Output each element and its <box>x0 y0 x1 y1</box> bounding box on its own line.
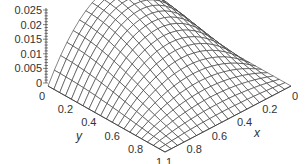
z-tick-label: 0.015 <box>14 33 42 45</box>
x-tick-label: 0 <box>292 90 298 102</box>
y-tick-label: 0.4 <box>81 116 96 128</box>
surface-plot: 00.0050.010.0150.020.025 00.20.40.60.81 … <box>0 0 307 164</box>
z-tick-label: 0.02 <box>21 19 42 31</box>
y-tick-label: 0 <box>39 90 45 102</box>
z-axis-ticks: 00.0050.010.0150.020.025 <box>14 4 48 89</box>
y-tick-label: 0.8 <box>128 143 143 155</box>
z-tick-label: 0.005 <box>14 62 42 74</box>
x-tick-label: 0.2 <box>262 103 277 115</box>
z-tick-label: 0.025 <box>14 4 42 16</box>
x-tick-label: 1 <box>166 156 172 164</box>
x-tick-label: 0.6 <box>212 130 227 142</box>
x-tick-label: 0.8 <box>187 143 202 155</box>
y-tick-label: 0.2 <box>58 103 73 115</box>
z-tick-label: 0.01 <box>21 48 42 60</box>
z-tick-label: 0 <box>36 77 42 89</box>
x-tick-label: 0.4 <box>237 116 252 128</box>
y-tick-label: 1 <box>156 156 162 164</box>
x-axis-label: x <box>253 126 261 140</box>
y-axis-label: y <box>75 129 83 143</box>
y-tick-label: 0.6 <box>105 130 120 142</box>
